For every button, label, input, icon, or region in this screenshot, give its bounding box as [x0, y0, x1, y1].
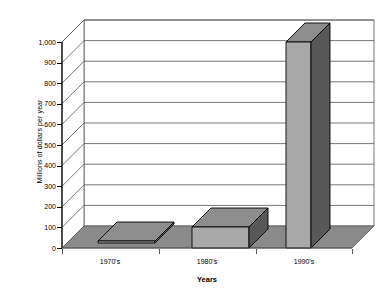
y-tick-mark-1000 — [57, 42, 62, 43]
x-tick-mark-left — [62, 249, 63, 254]
bar-chart-figure: 0 100 200 300 400 500 600 700 800 900 1,… — [0, 0, 392, 292]
y-tick-mark-400 — [57, 166, 62, 167]
x-tick-mark-1 — [159, 249, 160, 254]
bar-1990s-front — [286, 42, 311, 248]
bar-1970s-front — [98, 241, 155, 243]
y-tick-mark-300 — [57, 186, 62, 187]
x-tick-mark-right — [352, 249, 353, 254]
x-tick-label-1990s: 1990's — [269, 258, 339, 265]
y-tick-mark-900 — [57, 63, 62, 64]
bar-1990s-side — [311, 23, 330, 248]
bar-1990s[interactable] — [286, 23, 330, 248]
y-tick-mark-500 — [57, 145, 62, 146]
y-tick-mark-600 — [57, 124, 62, 125]
y-tick-mark-700 — [57, 104, 62, 105]
x-tick-label-1980s: 1980's — [172, 258, 242, 265]
y-tick-label-100: 100 — [22, 224, 56, 231]
y-tick-mark-100 — [57, 227, 62, 228]
y-axis-title: Millions of dollars per year — [36, 62, 43, 222]
y-tick-mark-200 — [57, 207, 62, 208]
bar-1980s-front — [192, 227, 249, 248]
x-tick-mark-2 — [256, 249, 257, 254]
x-tick-label-1970s: 1970's — [75, 258, 145, 265]
y-tick-label-1000: 1,000 — [22, 39, 56, 46]
x-axis-title: Years — [62, 275, 352, 284]
y-tick-label-0: 0 — [22, 245, 56, 252]
y-tick-mark-800 — [57, 83, 62, 84]
